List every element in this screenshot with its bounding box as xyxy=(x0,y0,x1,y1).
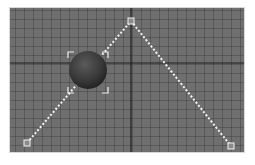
control-point-start[interactable] xyxy=(24,140,30,146)
scene-overlay xyxy=(0,0,255,165)
control-point-end[interactable] xyxy=(228,143,234,149)
control-point-apex[interactable] xyxy=(128,18,134,24)
motion-path[interactable] xyxy=(27,21,231,146)
sphere-object[interactable] xyxy=(69,51,107,89)
